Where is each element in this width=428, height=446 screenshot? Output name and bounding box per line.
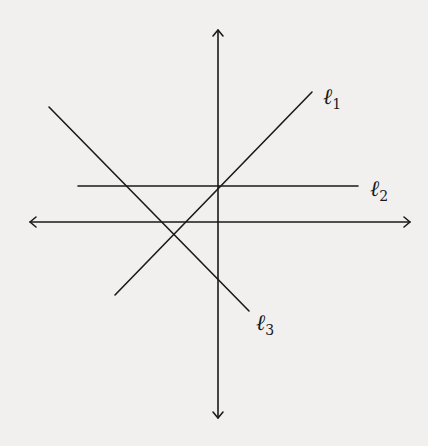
line-l1 [115,92,312,295]
line-l3 [49,107,249,311]
label-l2: ℓ2 [370,176,388,204]
lines-diagram: ℓ1 ℓ2 ℓ3 [0,0,428,446]
label-l1: ℓ1 [323,84,341,112]
label-l3: ℓ3 [256,310,274,338]
